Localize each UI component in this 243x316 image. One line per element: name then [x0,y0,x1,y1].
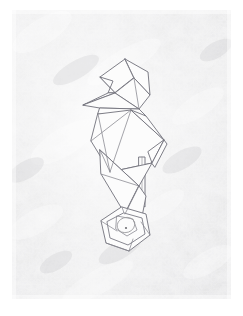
mottled-paper-panel [12,10,231,299]
paper-texture-svg [12,10,231,299]
artwork-root: Origami Seahorse [0,0,243,316]
